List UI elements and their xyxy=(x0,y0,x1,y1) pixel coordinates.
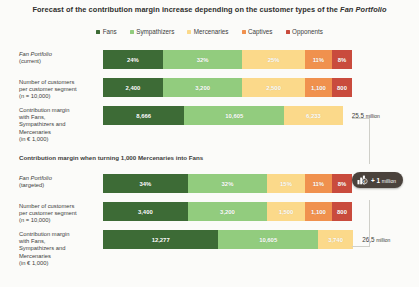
bar-segment-captives: 11% xyxy=(305,50,332,69)
row-label-line: (current) xyxy=(19,58,99,65)
legend-item-label: Mercenaries xyxy=(194,28,229,35)
stacked-bar: 34%32%15%11%8% xyxy=(103,174,352,193)
row-label-line: Sympathizers and xyxy=(19,121,99,128)
bar-segment-sympathizers: 3,200 xyxy=(188,202,268,221)
row-label-line: (in € 1,000) xyxy=(19,136,99,143)
bar-segment-fans: 2,400 xyxy=(103,78,163,97)
legend-swatch-icon xyxy=(242,30,246,34)
row-label-line: Contribution margin xyxy=(19,231,99,238)
row-label-line: per customer segment xyxy=(19,86,99,93)
connector-line xyxy=(352,246,370,247)
chart-page: Forecast of the contribution margin incr… xyxy=(0,0,419,287)
legend-swatch-icon xyxy=(96,30,100,34)
row-label-line: with Fans, xyxy=(19,114,99,121)
badge-value: + 1 xyxy=(371,177,380,184)
badge-label: + 1 million xyxy=(371,177,396,184)
connector-line xyxy=(352,118,370,119)
row-label: Contribution marginwith Fans,Sympathizer… xyxy=(19,107,103,143)
bar-segment-mercenaries: 2,500 xyxy=(242,78,304,97)
legend-swatch-icon xyxy=(286,30,290,34)
bar-segment-fans: 34% xyxy=(103,174,188,193)
connector-line xyxy=(369,200,370,246)
legend-item-sympathizers: Sympathizers xyxy=(130,28,175,35)
row-label: Fan Portfolio(current) xyxy=(19,51,103,65)
page-title-italic: Fan Portfolio xyxy=(340,5,387,14)
row-label-line: (in € 1,000) xyxy=(19,260,99,267)
row-label: Fan Portfolio(targeted) xyxy=(19,175,103,189)
row-label-line: Fan Portfolio xyxy=(19,175,99,182)
badge-unit: million xyxy=(382,178,396,184)
bar-segment-sympathizers: 32% xyxy=(163,50,243,69)
row-label-line: Number of customers xyxy=(19,79,99,86)
legend-item-label: Opponents xyxy=(292,28,323,35)
bar-segment-fans: 12,277 xyxy=(103,230,218,249)
section-caption: Contribution margin when turning 1,000 M… xyxy=(19,154,203,161)
legend-swatch-icon xyxy=(130,30,134,34)
bar-segment-opponents: 800 xyxy=(332,78,352,97)
legend-item-mercenaries: Mercenaries xyxy=(187,28,228,35)
legend-item-opponents: Opponents xyxy=(286,28,323,35)
stacked-bar: 3,4003,2001,5001,100800 xyxy=(103,202,352,221)
increase-badge: € + 1 million xyxy=(352,172,403,188)
page-title: Forecast of the contribution margin incr… xyxy=(0,5,419,14)
bar-segment-opponents: 8% xyxy=(332,174,352,193)
stacked-bar: 2,4003,2002,5001,100800 xyxy=(103,78,352,97)
row-label-text: Contribution marginwith Fans,Sympathizer… xyxy=(19,107,103,143)
row-label-text: Number of customersper customer segment(… xyxy=(19,203,103,225)
bar-segment-captives: 1,100 xyxy=(305,202,332,221)
row-label-line: Contribution margin xyxy=(19,107,99,114)
bar-segment-sympathizers: 10,605 xyxy=(218,230,318,249)
bar-segment-captives: 1,100 xyxy=(305,78,332,97)
legend-item-captives: Captives xyxy=(242,28,273,35)
bar-segment-mercenaries: 6,233 xyxy=(284,106,343,125)
row-label: Contribution marginwith Fans,Sympathizer… xyxy=(19,231,103,267)
bar-segment-sympathizers: 32% xyxy=(188,174,268,193)
bar-segment-sympathizers: 10,605 xyxy=(184,106,284,125)
row-label-text: Fan Portfolio(current) xyxy=(19,51,103,65)
bar-segment-sympathizers: 3,200 xyxy=(163,78,243,97)
bar-segment-mercenaries: 3,740 xyxy=(318,230,353,249)
row-label-line: (n = 10,000) xyxy=(19,217,99,224)
legend: FansSympathizersMercenariesCaptivesOppon… xyxy=(0,28,419,35)
row-label-line: (n = 10,000) xyxy=(19,93,99,100)
row-label-text: Number of customersper customer segment(… xyxy=(19,79,103,101)
row-label-line: Sympathizers and xyxy=(19,245,99,252)
legend-item-label: Sympathizers xyxy=(136,28,174,35)
bar-segment-opponents: 8% xyxy=(332,50,352,69)
bar-segment-captives: 11% xyxy=(305,174,332,193)
legend-item-label: Fans xyxy=(103,28,117,35)
bar-segment-fans: 3,400 xyxy=(103,202,188,221)
row-label-text: Fan Portfolio(targeted) xyxy=(19,175,103,189)
legend-item-fans: Fans xyxy=(96,28,117,35)
row-label-line: Mercenaries xyxy=(19,253,99,260)
stacked-bar: 12,27710,6053,740 xyxy=(103,230,353,249)
row-label-line: Number of customers xyxy=(19,203,99,210)
row-label-line: Mercenaries xyxy=(19,129,99,136)
legend-item-label: Captives xyxy=(248,28,273,35)
bar-segment-mercenaries: 1,500 xyxy=(267,202,304,221)
legend-swatch-icon xyxy=(187,30,191,34)
bar-segment-mercenaries: 15% xyxy=(267,174,304,193)
row-label-line: (targeted) xyxy=(19,182,99,189)
bar-segment-fans: 24% xyxy=(103,50,163,69)
bar-segment-fans: 8,666 xyxy=(103,106,184,125)
bar-segment-mercenaries: 25% xyxy=(242,50,304,69)
row-label: Number of customersper customer segment(… xyxy=(19,79,103,101)
bar-chart-euro-icon: € xyxy=(357,175,368,185)
row-label-line: with Fans, xyxy=(19,238,99,245)
stacked-bar: 24%32%25%11%8% xyxy=(103,50,352,69)
connector-line xyxy=(369,118,370,164)
row-label-line: per customer segment xyxy=(19,210,99,217)
bar-segment-opponents: 800 xyxy=(332,202,352,221)
row-total-unit: million xyxy=(376,237,390,243)
row-label-text: Contribution marginwith Fans,Sympathizer… xyxy=(19,231,103,267)
row-total: 26,5 million xyxy=(362,236,390,243)
page-title-text: Forecast of the contribution margin incr… xyxy=(32,5,340,14)
stacked-bar: 8,66610,6056,233 xyxy=(103,106,343,125)
row-label: Number of customersper customer segment(… xyxy=(19,203,103,225)
row-label-line: Fan Portfolio xyxy=(19,51,99,58)
